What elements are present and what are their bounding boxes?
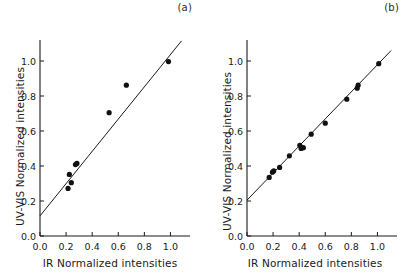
data-point xyxy=(301,145,306,150)
data-point xyxy=(323,121,328,126)
panel-a-data-points xyxy=(65,59,171,191)
y-tick-label: 0.0 xyxy=(10,231,36,242)
figure-scatter-correlation-panels: (a) 0.00.20.40.60.81.0 0.00.20.40.60.81.… xyxy=(0,0,413,275)
panel-a-x-axis-title: IR Normalized intensities xyxy=(0,257,206,269)
x-tick-label: 0.2 xyxy=(59,241,74,252)
data-point xyxy=(344,97,349,102)
data-point xyxy=(267,175,272,180)
panel-b: (b) 0.00.20.40.60.81.0 0.00.20.40.60.81.… xyxy=(207,0,413,275)
y-tick-label: 1.0 xyxy=(10,56,36,67)
data-point xyxy=(67,172,72,177)
x-tick-label: 0.8 xyxy=(344,241,359,252)
panel-a: (a) 0.00.20.40.60.81.0 0.00.20.40.60.81.… xyxy=(0,0,206,275)
data-point xyxy=(166,59,171,64)
x-tick-label: 1.0 xyxy=(163,241,178,252)
panel-b-y-axis-title: UV-VIS Normalized intensities xyxy=(221,72,233,231)
y-tick-label: 0.0 xyxy=(217,231,243,242)
x-tick-label: 0.8 xyxy=(137,241,152,252)
x-tick-label: 0.0 xyxy=(32,241,47,252)
x-tick-label: 0.0 xyxy=(239,241,254,252)
data-point xyxy=(277,165,282,170)
data-point xyxy=(107,110,112,115)
panel-a-y-axis-title: UV-VIS Normalized intensities xyxy=(14,67,26,226)
data-point xyxy=(309,132,314,137)
data-point xyxy=(376,61,381,66)
data-point xyxy=(74,161,79,166)
data-point xyxy=(287,153,292,158)
data-point xyxy=(69,180,74,185)
y-tick-label: 1.0 xyxy=(217,56,243,67)
x-tick-label: 0.6 xyxy=(318,241,333,252)
data-point xyxy=(356,83,361,88)
panel-b-x-axis-title: IR Normalized intensities xyxy=(207,257,413,269)
x-tick-label: 1.0 xyxy=(370,241,385,252)
data-point xyxy=(65,186,70,191)
x-tick-label: 0.2 xyxy=(266,241,281,252)
x-tick-label: 0.4 xyxy=(85,241,100,252)
panel-a-fit-line xyxy=(40,41,182,216)
data-point xyxy=(124,83,129,88)
x-tick-label: 0.6 xyxy=(111,241,126,252)
x-tick-label: 0.4 xyxy=(292,241,307,252)
data-point xyxy=(271,168,276,173)
panel-a-tick-marks xyxy=(40,61,170,236)
